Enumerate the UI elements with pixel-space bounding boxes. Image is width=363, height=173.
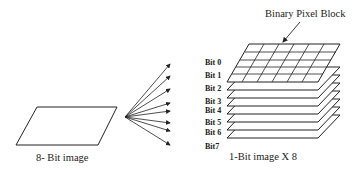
- bit-plane-diagram: Binary Pixel Block Bit 0 Bit 1 Bit 2 Bit…: [0, 0, 363, 173]
- bit-label: Bit 4: [205, 106, 221, 115]
- block-pointer-arrow: [283, 22, 300, 42]
- block-label: Binary Pixel Block: [265, 8, 346, 19]
- target-caption: 1-Bit image X 8: [229, 151, 297, 162]
- bit-arrows: [125, 64, 170, 145]
- bit-label: Bit 6: [205, 128, 221, 137]
- bit-label: Bit 1: [205, 71, 221, 80]
- bit-label: Bit 2: [205, 84, 221, 93]
- source-caption: 8- Bit image: [36, 152, 89, 163]
- bit-label: Bit 3: [205, 97, 221, 106]
- diagram-graphics: [0, 0, 363, 173]
- plane-stack: [227, 44, 340, 138]
- source-image-shape: [16, 107, 117, 145]
- bit-label: Bit 5: [205, 118, 221, 127]
- bit-label: Bit7: [205, 142, 219, 151]
- bit-label: Bit 0: [205, 58, 221, 67]
